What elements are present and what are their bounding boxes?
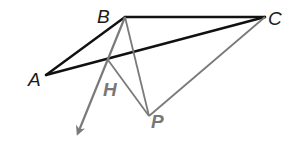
label-a: A — [27, 69, 41, 90]
label-p: P — [151, 111, 164, 132]
segment-bp — [125, 17, 149, 116]
label-b: B — [97, 6, 110, 27]
label-h: H — [103, 79, 118, 100]
geometry-diagram: B A C H P — [0, 0, 289, 150]
diagram-canvas: B A C H P — [0, 0, 289, 150]
label-c: C — [268, 8, 282, 29]
